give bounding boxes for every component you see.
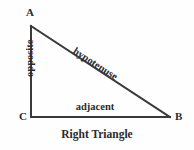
vertex-label-b: B [175,111,182,122]
side-label-opposite: opposite [25,33,36,83]
vertex-label-c: C [19,111,27,122]
right-triangle-figure: A B C opposite hypotenuse adjacent Right… [0,0,194,150]
figure-caption: Right Triangle [0,129,194,141]
side-label-adjacent: adjacent [64,102,126,113]
vertex-label-a: A [26,7,34,18]
